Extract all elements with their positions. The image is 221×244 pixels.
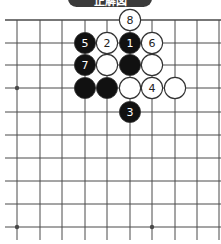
stones-layer: 85216743 — [74, 9, 185, 122]
white-stone — [164, 77, 185, 98]
move-number: 6 — [149, 37, 156, 50]
white-stone: 2 — [96, 32, 117, 53]
white-stone: 8 — [119, 9, 140, 30]
move-number: 7 — [82, 59, 89, 72]
white-stone — [141, 54, 162, 75]
black-stone: 3 — [119, 101, 140, 122]
move-number: 2 — [104, 37, 111, 50]
black-stone: 5 — [74, 32, 95, 53]
black-stone: 7 — [74, 54, 95, 75]
go-board: 85216743 — [0, 0, 221, 244]
black-stone — [119, 54, 140, 75]
move-number: 8 — [127, 14, 134, 27]
white-stone: 6 — [141, 32, 162, 53]
move-number: 5 — [82, 37, 89, 50]
board-grid — [5, 20, 221, 240]
white-stone: 4 — [141, 77, 162, 98]
black-stone: 1 — [119, 32, 140, 53]
move-number: 3 — [127, 106, 134, 119]
star-point — [150, 225, 154, 229]
star-point — [15, 225, 19, 229]
move-number: 4 — [149, 82, 156, 95]
diagram-caption — [25, 238, 221, 244]
black-stone — [74, 77, 95, 98]
move-number: 1 — [127, 37, 134, 50]
star-point — [15, 86, 19, 90]
white-stone — [96, 54, 117, 75]
white-stone — [119, 77, 140, 98]
black-stone — [96, 77, 117, 98]
